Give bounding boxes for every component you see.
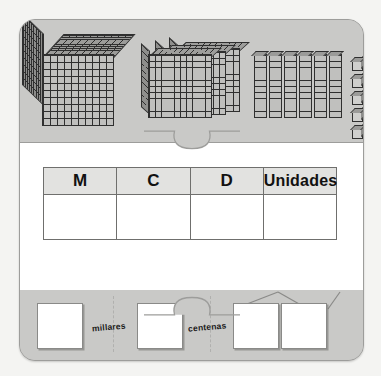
ten-rod	[269, 54, 282, 118]
base-ten-blocks-display	[20, 20, 363, 142]
ten-rod	[314, 54, 327, 118]
place-value-table: M C D Unidades	[43, 167, 337, 240]
cell-unidades[interactable]	[263, 195, 336, 240]
answer-box-3[interactable]	[233, 303, 279, 349]
unit-cube	[352, 60, 363, 71]
ten-rod	[254, 54, 267, 118]
unit-cube	[352, 94, 363, 105]
thousand-cube-icon	[34, 32, 118, 128]
puzzle-connector-top	[144, 130, 240, 170]
table-header-row: M C D Unidades	[44, 168, 337, 195]
column-header-m: M	[44, 168, 117, 195]
answer-box-1[interactable]	[37, 303, 83, 349]
cell-d[interactable]	[190, 195, 263, 240]
hundred-flat	[148, 54, 212, 118]
label-millares: millares	[92, 321, 126, 334]
puzzle-connector-bottom	[144, 278, 240, 316]
ten-rod	[284, 54, 297, 118]
table-row	[44, 195, 337, 240]
ten-rod	[329, 54, 342, 118]
cell-c[interactable]	[117, 195, 190, 240]
hundred-flat-icon	[148, 38, 244, 128]
column-header-d: D	[190, 168, 263, 195]
ten-rod	[299, 54, 312, 118]
cell-m[interactable]	[44, 195, 117, 240]
unit-cube	[352, 111, 363, 122]
label-centenas: centenas	[188, 320, 227, 333]
unit-cube	[352, 77, 363, 88]
unit-cubes-group	[350, 56, 364, 138]
ten-rod-icon	[254, 54, 350, 116]
cube-left-face	[22, 19, 44, 106]
hundred-flats-group	[148, 38, 244, 128]
unit-cube	[352, 128, 363, 139]
answer-box-4[interactable]	[281, 303, 327, 349]
column-header-unidades: Unidades	[263, 168, 336, 195]
ten-rods-group	[254, 54, 350, 116]
blocks-band	[20, 20, 363, 142]
worksheet-card: M C D Unidades	[19, 19, 364, 361]
column-header-c: C	[117, 168, 190, 195]
unit-cube-icon	[350, 56, 364, 138]
cube-front-face	[42, 54, 114, 126]
thousand-cube-group	[34, 32, 118, 128]
